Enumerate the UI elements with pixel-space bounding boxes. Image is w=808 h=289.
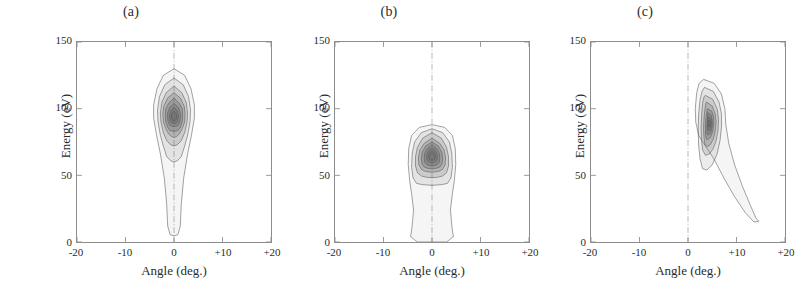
x-tick-label: -20 bbox=[327, 246, 342, 258]
panel-title-c: (c) bbox=[514, 4, 776, 20]
x-axis-ticks-c: -20-100+10+20 bbox=[590, 246, 786, 260]
y-tick-label: 0 bbox=[28, 237, 72, 247]
x-axis-label-a: Angle (deg.) bbox=[76, 263, 272, 279]
y-tick-label: 0 bbox=[286, 237, 330, 247]
y-tick-label: 150 bbox=[542, 35, 586, 45]
x-tick-label: +10 bbox=[214, 246, 231, 258]
x-axis-label-c: Angle (deg.) bbox=[590, 263, 786, 279]
contour-figure: (a)050100150-20-100+10+20Energy (eV)Angl… bbox=[0, 0, 808, 289]
x-tick-label: +10 bbox=[728, 246, 745, 258]
x-tick-label: +20 bbox=[777, 246, 794, 258]
contour-plot-c bbox=[591, 42, 785, 242]
y-axis-label-b: Energy (eV) bbox=[316, 56, 332, 196]
contour-plot-a bbox=[77, 42, 271, 242]
y-tick-label: 150 bbox=[28, 35, 72, 45]
x-tick-label: 0 bbox=[171, 246, 177, 258]
y-axis-label-a: Energy (eV) bbox=[58, 56, 74, 196]
x-tick-label: -10 bbox=[118, 246, 133, 258]
contour-plot-b bbox=[335, 42, 529, 242]
y-tick-label: 0 bbox=[542, 237, 586, 247]
x-tick-label: 0 bbox=[685, 246, 691, 258]
x-tick-label: 0 bbox=[429, 246, 435, 258]
x-axis-ticks-a: -20-100+10+20 bbox=[76, 246, 272, 260]
plot-area-a bbox=[76, 41, 272, 243]
y-tick-label: 150 bbox=[286, 35, 330, 45]
contour-level-1 bbox=[708, 120, 710, 127]
panel-a: (a)050100150-20-100+10+20Energy (eV)Angl… bbox=[0, 0, 262, 289]
panel-title-a: (a) bbox=[0, 4, 262, 20]
x-axis-ticks-b: -20-100+10+20 bbox=[334, 246, 530, 260]
x-tick-label: -20 bbox=[583, 246, 598, 258]
panel-title-b: (b) bbox=[258, 4, 520, 20]
plot-area-c bbox=[590, 41, 786, 243]
x-tick-label: -10 bbox=[632, 246, 647, 258]
x-axis-label-b: Angle (deg.) bbox=[334, 263, 530, 279]
x-tick-label: -20 bbox=[69, 246, 84, 258]
plot-area-b bbox=[334, 41, 530, 243]
panel-c: (c)050100150-20-100+10+20Energy (eV)Angl… bbox=[514, 0, 776, 289]
panel-b: (b)050100150-20-100+10+20Energy (eV)Angl… bbox=[258, 0, 520, 289]
x-tick-label: -10 bbox=[376, 246, 391, 258]
y-axis-label-c: Energy (eV) bbox=[572, 56, 588, 196]
x-tick-label: +10 bbox=[472, 246, 489, 258]
